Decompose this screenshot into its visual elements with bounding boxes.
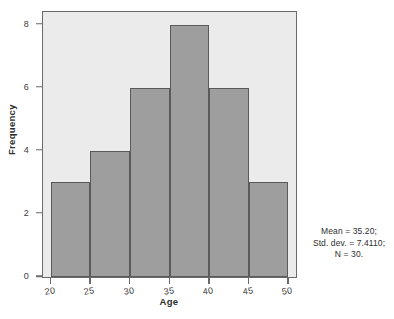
annotation-line-std-dev: Std. dev. = 7.4110; xyxy=(306,238,392,250)
y-tick-label-2: 2 xyxy=(24,208,29,218)
statistics-annotation: Mean = 35.20; Std. dev. = 7.4110; N = 30… xyxy=(306,226,392,261)
histogram-bars xyxy=(43,12,296,277)
histogram-bar-40-45[interactable] xyxy=(209,88,249,277)
x-tick-label-25: 25 xyxy=(84,285,96,297)
x-tick-label-40: 40 xyxy=(202,285,214,297)
x-tick-mark-50 xyxy=(287,278,289,284)
histogram-bar-20-25[interactable] xyxy=(51,182,91,277)
plot-area xyxy=(42,11,297,278)
x-tick-mark-30 xyxy=(129,278,131,284)
y-axis-title: Frequency xyxy=(6,104,17,155)
histogram-bar-35-40[interactable] xyxy=(170,25,210,277)
x-tick-mark-20 xyxy=(50,278,52,284)
x-tick-label-30: 30 xyxy=(123,285,135,297)
y-tick-label-4: 4 xyxy=(24,145,29,155)
histogram-figure: 0 2 4 6 8 Frequency 20 2 xyxy=(0,0,394,319)
histogram-bar-25-30[interactable] xyxy=(90,151,130,277)
histogram-bar-45-50[interactable] xyxy=(249,182,289,277)
histogram-bar-30-35[interactable] xyxy=(130,88,170,277)
x-axis: 20 25 30 35 40 45 50 xyxy=(0,278,394,319)
annotation-line-mean: Mean = 35.20; xyxy=(306,226,392,238)
x-tick-mark-40 xyxy=(208,278,210,284)
x-tick-mark-45 xyxy=(248,278,250,284)
x-tick-mark-25 xyxy=(89,278,91,284)
y-tick-label-6: 6 xyxy=(24,82,29,92)
x-tick-label-45: 45 xyxy=(242,285,254,297)
x-tick-label-50: 50 xyxy=(281,285,293,297)
x-tick-label-20: 20 xyxy=(44,285,56,297)
y-axis: 0 2 4 6 8 xyxy=(0,0,42,319)
x-tick-mark-35 xyxy=(169,278,171,284)
y-tick-label-8: 8 xyxy=(24,19,29,29)
x-axis-title: Age xyxy=(160,296,179,307)
annotation-line-n: N = 30. xyxy=(306,249,392,261)
